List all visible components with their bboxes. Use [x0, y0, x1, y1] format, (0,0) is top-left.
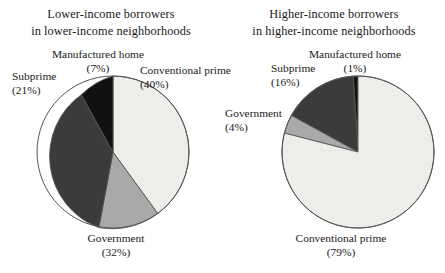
pie-right-label-manufactured-home-name: Manufactured home: [309, 48, 401, 60]
chart-panel-lower-income: Lower-income borrowers in lower-income n…: [0, 0, 222, 273]
pie-left-label-manufactured-home-name: Manufactured home: [52, 48, 144, 60]
pie-left-label-government: Government (32%): [60, 232, 172, 259]
pie-chart-figure: Lower-income borrowers in lower-income n…: [0, 0, 445, 273]
pie-left-label-conventional-prime-name: Conventional prime: [140, 64, 231, 76]
pie-right-label-subprime-value: (16%): [271, 76, 315, 90]
pie-right-label-subprime-name: Subprime: [271, 62, 315, 74]
pie-left-label-conventional-prime-value: (40%): [140, 78, 231, 92]
pie-right-label-government: Government (4%): [225, 107, 282, 134]
pie-right-label-government-name: Government: [225, 107, 282, 119]
pie-left-label-subprime: Subprime (21%): [12, 70, 56, 97]
pie-right-label-subprime: Subprime (16%): [271, 62, 315, 89]
pie-left-label-subprime-name: Subprime: [12, 70, 56, 82]
pie-right-label-conventional-prime-value: (79%): [273, 246, 409, 260]
pie-right-label-conventional-prime: Conventional prime (79%): [273, 232, 409, 259]
pie-left-label-subprime-value: (21%): [12, 84, 56, 98]
pie-right-label-government-value: (4%): [225, 121, 282, 135]
pie-left-label-government-name: Government: [88, 232, 145, 244]
pie-left-label-conventional-prime: Conventional prime (40%): [140, 64, 231, 91]
chart-panel-higher-income: Higher-income borrowers in higher-income…: [223, 0, 445, 273]
pie-left-label-government-value: (32%): [60, 246, 172, 260]
pie-right-label-conventional-prime-name: Conventional prime: [296, 232, 387, 244]
